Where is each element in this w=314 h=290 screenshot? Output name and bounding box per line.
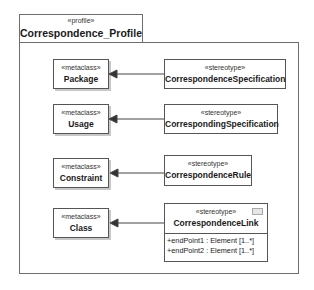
extension-arrowhead-icon (110, 169, 118, 177)
extension-arrowhead-icon (109, 115, 117, 123)
extension-arrowhead-icon (109, 70, 117, 78)
extension-arrowhead-icon (110, 219, 118, 227)
extension-arrows (0, 0, 314, 290)
